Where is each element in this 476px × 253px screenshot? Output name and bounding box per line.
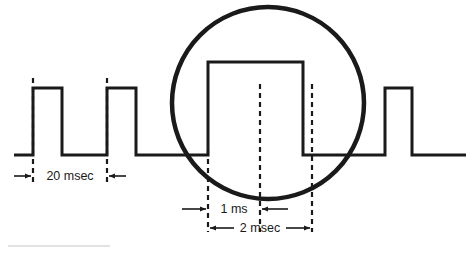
magnified-span-dimension: 2 msec: [210, 221, 310, 235]
magnified-span-label: 2 msec: [240, 221, 280, 235]
period-label: 20 msec: [46, 169, 93, 183]
magnifier-circle-icon: [172, 7, 364, 199]
pulse-waveform-diagram: 20 msec 1 ms 2 msec: [0, 0, 476, 253]
pulse-width-label: 1 ms: [220, 202, 247, 216]
pulse-width-dimension: 1 ms: [182, 202, 288, 216]
pulse-diagram-figure: 20 msec 1 ms 2 msec: [0, 0, 476, 253]
period-dimension: 20 msec: [14, 169, 126, 183]
waveform-trace: [14, 62, 466, 155]
